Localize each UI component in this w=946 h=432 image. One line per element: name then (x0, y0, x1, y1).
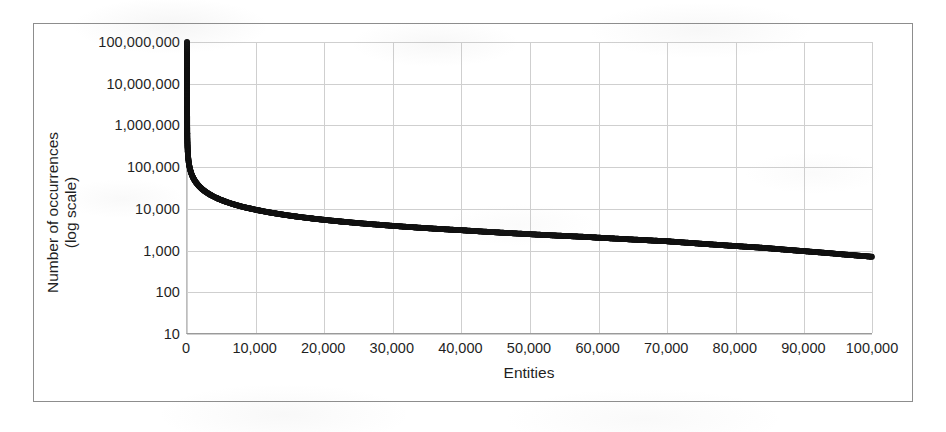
y-tick-label-7: 10 (164, 326, 180, 342)
x-tick-label-4: 40,000 (438, 340, 482, 356)
data-point-marker (293, 214, 299, 220)
y-tick-label-3: 100,000 (127, 159, 180, 175)
x-tick-label-1: 10,000 (232, 340, 276, 356)
data-point-marker (273, 211, 279, 217)
x-tick-label-7: 70,000 (644, 340, 688, 356)
y-tick-label-1: 10,000,000 (106, 76, 180, 92)
y-tick-label-5: 1,000 (143, 243, 180, 259)
x-tick-label-0: 0 (182, 340, 190, 356)
data-point-marker (869, 254, 875, 260)
data-point-marker (247, 206, 253, 212)
data-series-occurrences (187, 42, 872, 334)
y-tick-label-4: 10,000 (135, 201, 180, 217)
x-tick-label-10: 100,000 (846, 340, 898, 356)
plot-area (186, 42, 872, 334)
x-axis-title: Entities (186, 364, 872, 382)
x-tick-label-2: 20,000 (301, 340, 345, 356)
x-tick-label-5: 50,000 (507, 340, 551, 356)
y-tick-label-2: 1,000,000 (115, 117, 180, 133)
data-point-marker (264, 209, 270, 215)
y-axis-title-line1: Number of occurrences (44, 132, 62, 293)
y-tick-label-0: 100,000,000 (98, 34, 180, 50)
y-tick-label-6: 100 (156, 284, 181, 300)
x-axis-tick-labels: 010,00020,00030,00040,00050,00060,00070,… (186, 340, 872, 362)
y-axis-tick-labels: 100,000,00010,000,0001,000,000100,00010,… (62, 28, 180, 348)
vertical-gridline-10 (872, 42, 873, 333)
x-tick-label-9: 90,000 (781, 340, 825, 356)
x-tick-label-6: 60,000 (575, 340, 619, 356)
x-tick-label-8: 80,000 (713, 340, 757, 356)
data-point-marker (303, 215, 309, 221)
horizontal-gridline-7 (187, 334, 872, 335)
x-tick-label-3: 30,000 (370, 340, 414, 356)
